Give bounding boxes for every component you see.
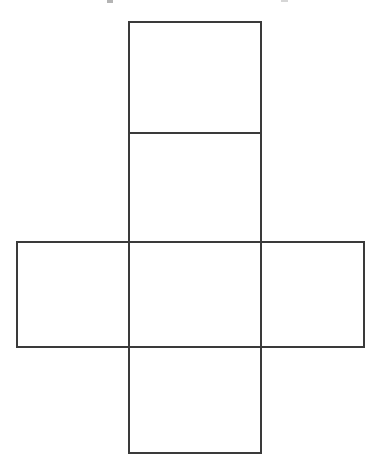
figure-canvas <box>0 0 382 469</box>
right-face <box>261 242 364 347</box>
left-face <box>17 242 129 347</box>
top-face <box>129 22 261 133</box>
bottom-face <box>129 347 261 453</box>
net-faces-group <box>17 22 364 453</box>
upper-middle-face <box>129 133 261 242</box>
center-face <box>129 242 261 347</box>
cube-net-diagram <box>0 0 382 469</box>
